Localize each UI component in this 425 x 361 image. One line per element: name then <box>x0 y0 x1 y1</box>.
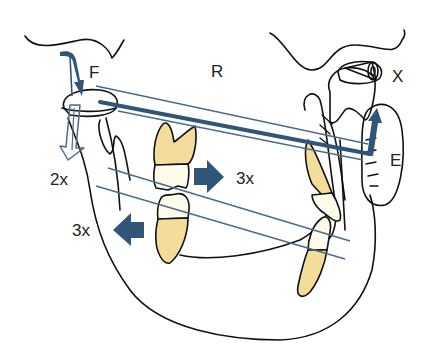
ramus-line <box>106 118 120 210</box>
diagram-canvas: F R X E 2x 3x 3x <box>0 0 425 361</box>
lower-right-tooth-root <box>298 250 327 296</box>
upper-left-tooth-crown <box>154 164 189 190</box>
label-E: E <box>390 151 401 170</box>
vertical-line-F <box>70 56 72 96</box>
skull-contour-right <box>270 30 405 70</box>
jaw-force-diagram: F R X E 2x 3x 3x <box>0 0 425 361</box>
label-right-3x: 3x <box>236 169 254 188</box>
left-arrow <box>113 213 144 246</box>
right-arrow <box>194 160 224 193</box>
label-left-3x: 3x <box>72 221 90 240</box>
lower-right-tooth <box>298 217 331 296</box>
lower-left-tooth <box>156 194 189 264</box>
skull-contour-left <box>25 36 124 58</box>
upper-left-tooth-root <box>154 123 196 165</box>
ramus-inner <box>99 120 130 180</box>
label-R: R <box>211 62 223 81</box>
lower-left-tooth-crown <box>158 194 190 219</box>
label-X: X <box>392 67 403 86</box>
label-2x: 2x <box>50 170 68 189</box>
label-F: F <box>89 63 99 82</box>
upper-left-tooth <box>154 123 196 190</box>
